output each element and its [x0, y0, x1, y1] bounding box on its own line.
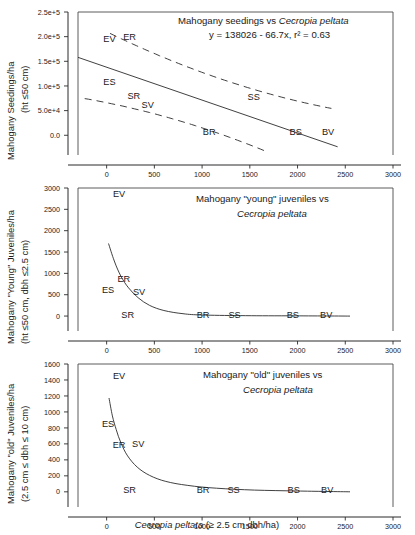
panel-2-title-group: Mahogany "young" juveniles vs Cecropia p…: [196, 193, 329, 219]
panel-3-title-italic: Cecropia peltata: [243, 384, 313, 395]
panel-1-y-axis-title: Mahogany Seedings/ha (ht ≤50 cm): [5, 61, 30, 160]
panel-2-y-tick-label: 500: [48, 290, 60, 299]
site-label-er: ER: [113, 440, 126, 450]
panel-3-curve: [109, 398, 350, 492]
panel-3-title-plain: Mahogany "old" juveniles vs: [203, 369, 323, 380]
panel-1-point-labels: EVERESSRSVSSBRBSBV: [103, 32, 335, 138]
panel-3-x-tick-label: 2000: [290, 522, 306, 531]
site-label-bv: BV: [321, 485, 334, 495]
panel-1-y-tick-label: 5.0e+4: [38, 106, 60, 115]
site-label-ev: EV: [103, 34, 116, 44]
panel-1-title-italic: Cecropia peltata: [279, 15, 349, 26]
panel-3-y-tick-label: 1200: [44, 392, 60, 401]
panel-2-y-tick-label: 3000: [44, 184, 60, 193]
fitted-curve: [109, 398, 350, 492]
panel-3-x-tick-label: 0: [105, 522, 109, 531]
site-label-sv: SV: [142, 100, 155, 110]
panel-3-y-tick-label: 1400: [44, 376, 60, 385]
panel-3-x-tick-label: 3000: [385, 522, 401, 531]
site-label-ev: EV: [113, 189, 126, 199]
site-label-es: ES: [102, 285, 114, 295]
panel-3-y-tick-label: 1000: [44, 408, 60, 417]
panel-1-y-tick-label: 0.0: [50, 131, 60, 140]
panel-3-svg: Mahogany "old" Juveniles/ha (2.5 cm ≤ db…: [0, 352, 415, 535]
panel-seedlings: Mahogany Seedings/ha (ht ≤50 cm) 2.5e+52…: [0, 0, 415, 178]
panel-3-y-tick-label: 1600: [44, 360, 60, 369]
site-label-bs: BS: [290, 127, 302, 137]
panel-2-y-ticks: 300025002000150010005000: [44, 184, 68, 321]
panel-3-y-tick-label: 800: [48, 424, 60, 433]
site-label-sr: SR: [121, 310, 134, 320]
site-label-er: ER: [117, 274, 130, 284]
panel-3-y-axis-title: Mahogany "old" Juveniles/ha (2.5 cm ≤ db…: [5, 383, 30, 504]
site-label-es: ES: [103, 77, 115, 87]
panel-2-y-axis-title-line2: (ht ≤50 cm, dbh ≤2.5 cm): [19, 240, 30, 344]
confidence-band-lower: [85, 99, 268, 153]
panel-2-title-italic: Cecropia peltata: [237, 208, 307, 219]
x-axis-title-italic: Cecropia peltata: [135, 519, 203, 530]
panel-3-y-tick-label: 600: [48, 439, 60, 448]
panel-1-title-group: Mahogany seedings vs Cecropia peltata y …: [178, 15, 349, 40]
site-label-br: BR: [203, 127, 216, 137]
site-label-ev: EV: [113, 371, 126, 381]
panel-1-y-ticks: 2.5e+52.0e+51.5e+51.0e+55.0e+40.0: [38, 8, 68, 140]
panel-1-y-axis-title-line1: Mahogany Seedings/ha: [5, 61, 16, 160]
panel-3-title-group: Mahogany "old" juveniles vs Cecropia pel…: [203, 369, 323, 395]
site-label-sv: SV: [132, 439, 145, 449]
x-axis-title-plain: (≥ 2.5 cm dbh/ha): [203, 519, 279, 530]
site-label-bv: BV: [322, 127, 335, 137]
panel-2-title-plain: Mahogany "young" juveniles vs: [196, 193, 329, 204]
site-label-ss: SS: [228, 310, 240, 320]
panel-1-title-plain: Mahogany seedings vs: [178, 15, 279, 26]
panel-3-y-ticks: 16001400120010008006004002000: [44, 360, 68, 497]
panel-3-y-axis-title-line2: (2.5 cm ≤ dbh ≤ 10 cm): [19, 406, 30, 502]
panel-3-y-axis-title-line1: Mahogany "old" Juveniles/ha: [5, 383, 16, 504]
panel-2-y-axis-title: Mahogany "Young" Juveniles/ha (ht ≤50 cm…: [5, 209, 30, 344]
panel-1-equation: y = 138026 - 66.7x, r² = 0.63: [209, 29, 330, 40]
confidence-band-upper: [110, 33, 331, 108]
site-label-sr: SR: [127, 91, 140, 101]
site-label-sv: SV: [133, 287, 146, 297]
site-label-br: BR: [197, 310, 210, 320]
panel-2-y-tick-label: 1000: [44, 269, 60, 278]
panel-2-y-axis-title-line1: Mahogany "Young" Juveniles/ha: [5, 209, 16, 344]
panel-2-y-tick-label: 0: [56, 312, 60, 321]
site-label-bs: BS: [287, 310, 299, 320]
panel-3-y-tick-label: 0: [56, 487, 60, 496]
site-label-bv: BV: [320, 310, 333, 320]
figure-container: Mahogany Seedings/ha (ht ≤50 cm) 2.5e+52…: [0, 0, 415, 535]
site-label-er: ER: [123, 32, 136, 42]
panel-2-curve: [109, 244, 351, 317]
panel-3-x-tick-label: 2500: [337, 522, 353, 531]
panel-1-svg: Mahogany Seedings/ha (ht ≤50 cm) 2.5e+52…: [0, 0, 415, 178]
panel-3-y-tick-label: 400: [48, 455, 60, 464]
panel-1-y-tick-label: 2.5e+5: [38, 8, 60, 17]
panel-2-y-tick-label: 1500: [44, 248, 60, 257]
fitted-curve: [109, 244, 351, 317]
panel-2-y-tick-label: 2000: [44, 226, 60, 235]
site-label-es: ES: [102, 419, 114, 429]
panel-young-juveniles: Mahogany "Young" Juveniles/ha (ht ≤50 cm…: [0, 176, 415, 354]
panel-1-y-tick-label: 2.0e+5: [38, 32, 60, 41]
panel-old-juveniles: Mahogany "old" Juveniles/ha (2.5 cm ≤ db…: [0, 352, 415, 535]
site-label-sr: SR: [123, 485, 136, 495]
panel-1-y-tick-label: 1.5e+5: [38, 57, 60, 66]
site-label-bs: BS: [288, 485, 300, 495]
x-axis-title: Cecropia peltata (≥ 2.5 cm dbh/ha): [135, 519, 279, 530]
site-label-ss: SS: [248, 92, 260, 102]
panel-1-title: Mahogany seedings vs Cecropia peltata: [178, 15, 349, 26]
panel-2-y-tick-label: 2500: [44, 205, 60, 214]
panel-1-y-axis-title-line2: (ht ≤50 cm): [19, 66, 30, 113]
panel-1-y-tick-label: 1.0e+5: [38, 82, 60, 91]
site-label-ss: SS: [227, 485, 239, 495]
panel-2-svg: Mahogany "Young" Juveniles/ha (ht ≤50 cm…: [0, 176, 415, 354]
panel-3-y-tick-label: 200: [48, 471, 60, 480]
site-label-br: BR: [197, 485, 210, 495]
